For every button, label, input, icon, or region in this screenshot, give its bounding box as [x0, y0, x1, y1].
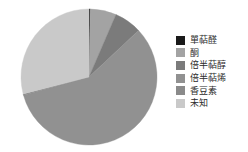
chart-legend: 單萜醛酮倍半萜醇倍半萜烯香豆素未知: [176, 34, 246, 110]
legend-item[interactable]: 香豆素: [176, 84, 246, 97]
legend-item-label: 倍半萜烯: [190, 73, 226, 83]
pie-chart-svg: [19, 7, 159, 147]
legend-item-label: 未知: [190, 98, 208, 108]
legend-item-label: 倍半萜醇: [190, 60, 226, 70]
legend-item[interactable]: 倍半萜醇: [176, 59, 246, 72]
chart-screenshot: 單萜醛酮倍半萜醇倍半萜烯香豆素未知: [0, 0, 248, 152]
legend-swatch-icon: [176, 99, 185, 108]
pie-slice-group: [21, 9, 157, 145]
legend-swatch-icon: [176, 86, 185, 95]
legend-item[interactable]: 未知: [176, 97, 246, 110]
legend-swatch-icon: [176, 61, 185, 70]
legend-swatch-icon: [176, 36, 185, 45]
legend-item[interactable]: 單萜醛: [176, 34, 246, 47]
legend-item-label: 單萜醛: [190, 35, 217, 45]
pie-chart-area: [19, 7, 159, 147]
legend-item[interactable]: 酮: [176, 47, 246, 60]
legend-swatch-icon: [176, 74, 185, 83]
legend-item-label: 香豆素: [190, 86, 217, 96]
legend-swatch-icon: [176, 48, 185, 57]
legend-item-label: 酮: [190, 48, 199, 58]
legend-item[interactable]: 倍半萜烯: [176, 72, 246, 85]
